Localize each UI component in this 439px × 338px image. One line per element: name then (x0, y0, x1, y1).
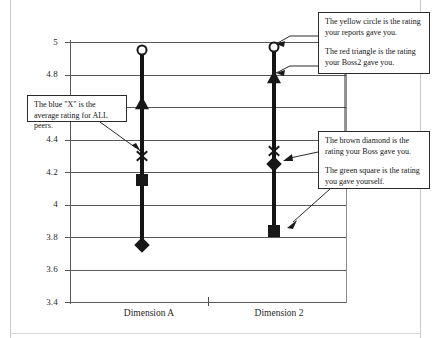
y-axis-label: 4.2 (12, 168, 58, 177)
callout-top-right-line1: The yellow circle is the rating your rep… (325, 17, 424, 38)
callout-reports-and-boss2: The yellow circle is the rating your rep… (318, 12, 430, 74)
callout-peer-average: The blue "X" is the average rating for A… (27, 95, 127, 122)
y-axis-label: 3.6 (12, 265, 58, 274)
y-axis-label-text: 4.2 (12, 168, 58, 177)
y-axis-label-text: 4 (12, 200, 58, 209)
y-axis-label: 3.8 (12, 233, 58, 242)
data-marker-triangle (267, 70, 281, 83)
y-axis-label: 4.4 (12, 135, 58, 144)
y-axis-label-text: 4.8 (12, 70, 58, 79)
y-axis-label: 5 (12, 38, 58, 47)
rating-comparison-chart: 54.84.44.243.83.63.4 Dimension A Dimensi… (0, 0, 439, 338)
callout-mid-right-line1: The brown diamond is the rating your Bos… (325, 136, 424, 157)
data-marker-diamond (266, 156, 282, 172)
y-axis-tick (65, 302, 70, 303)
callout-boss-and-self: The brown diamond is the rating your Bos… (318, 131, 430, 189)
y-axis-label: 4 (12, 200, 58, 209)
data-marker-triangle (135, 96, 149, 109)
y-axis-label-text: 3.6 (12, 265, 58, 274)
x-axis-label-dimension-a: Dimension A (94, 308, 204, 319)
plot-area (70, 42, 346, 302)
data-marker-circle (137, 45, 148, 56)
range-stem (140, 50, 144, 245)
data-marker-square (268, 225, 280, 237)
y-axis-label-text: 4.4 (12, 135, 58, 144)
y-axis-label-text: 3.8 (12, 233, 58, 242)
callout-left-line1: The blue "X" is the average rating for A… (34, 100, 121, 132)
data-marker-diamond (134, 237, 150, 253)
x-axis-label-dimension-2: Dimension 2 (224, 308, 334, 319)
y-axis-label: 3.4 (12, 298, 58, 307)
y-axis-label-text: 3.4 (12, 298, 58, 307)
callout-top-right-line2: The red triangle is the rating your Boss… (325, 47, 424, 68)
gridline (70, 302, 346, 303)
data-marker-square (136, 174, 148, 186)
y-axis-label-text: 5 (12, 38, 58, 47)
callout-mid-right-line2: The green square is the rating you gave … (325, 166, 424, 187)
data-marker-x (135, 149, 149, 163)
y-axis-label: 4.8 (12, 70, 58, 79)
data-marker-circle (269, 41, 280, 52)
